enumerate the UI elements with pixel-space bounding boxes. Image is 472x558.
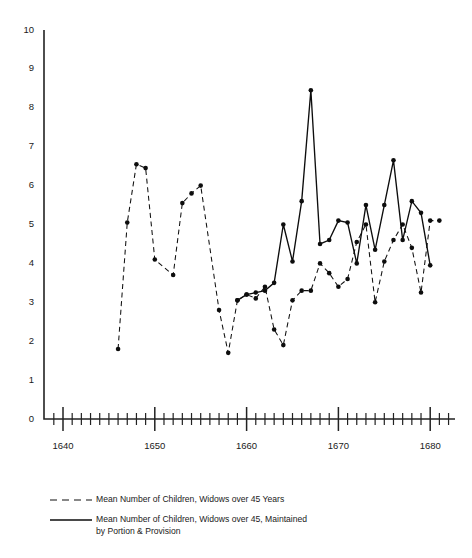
y-tick-label: 3 [29,296,34,307]
series-widows-over-45-maintained [235,88,432,303]
y-tick-label: 8 [29,101,34,112]
data-point [189,191,194,196]
y-tick-label: 4 [29,257,34,268]
data-point [253,290,258,295]
data-point [226,351,231,356]
y-tick-label: 1 [29,374,34,385]
x-tick-label: 1650 [144,440,165,451]
data-point [327,238,332,243]
data-point [217,308,222,313]
legend-label: Mean Number of Children, Widows over 45 … [96,494,284,504]
data-point [318,261,323,266]
data-point [437,218,442,223]
data-point [318,242,323,247]
data-point [400,238,405,243]
x-tick-label: 1660 [236,440,257,451]
y-tick-label: 9 [29,62,34,73]
data-point [354,261,359,266]
data-point [134,162,139,167]
data-point [428,218,433,223]
data-point [272,327,277,332]
data-point [125,220,130,225]
x-axis-ticks: 16401650166016701680 [52,407,448,451]
y-tick-label: 0 [29,413,34,424]
y-tick-label: 10 [23,24,34,35]
data-point [428,263,433,268]
data-point [382,259,387,264]
data-point [171,273,176,278]
x-tick-label: 1640 [52,440,73,451]
y-tick-label: 2 [29,335,34,346]
data-point [345,277,350,282]
series-widows-over-45 [116,162,442,355]
data-point [299,288,304,293]
data-point [263,288,268,293]
data-point [116,347,121,352]
line-chart: 012345678910 16401650166016701680 Mean N… [0,0,472,558]
data-point [290,298,295,303]
data-point [419,211,424,216]
data-point [336,218,341,223]
legend-label: Mean Number of Children, Widows over 45,… [96,514,307,524]
x-tick-label: 1670 [328,440,349,451]
data-point [244,292,249,297]
data-point [253,296,258,301]
series-line [118,164,439,353]
data-point [235,298,240,303]
data-point [327,271,332,276]
y-tick-label: 5 [29,218,34,229]
axis-lines [44,30,455,419]
series-line [237,90,430,300]
data-point [345,220,350,225]
data-point [180,201,185,206]
data-point [336,284,341,289]
data-point [373,247,378,252]
data-point [382,203,387,208]
data-point [281,222,286,227]
data-point [309,88,314,93]
x-tick-label: 1680 [420,440,441,451]
chart-figure: 012345678910 16401650166016701680 Mean N… [0,0,472,558]
chart-legend: Mean Number of Children, Widows over 45 … [50,494,307,536]
data-point [299,199,304,204]
data-point [391,158,396,163]
data-point [143,166,148,171]
data-point [364,222,369,227]
data-point [410,199,415,204]
data-point [290,259,295,264]
data-point [309,288,314,293]
data-point [391,238,396,243]
data-point [153,257,158,262]
data-point [410,246,415,251]
data-point [419,290,424,295]
data-point [364,203,369,208]
data-point [272,281,277,286]
data-point [354,240,359,245]
y-axis-ticks: 012345678910 [23,24,34,424]
data-point [281,343,286,348]
y-tick-label: 6 [29,179,34,190]
legend-label: by Portion & Provision [96,526,181,536]
y-tick-label: 7 [29,140,34,151]
data-point [373,300,378,305]
data-point [198,183,203,188]
